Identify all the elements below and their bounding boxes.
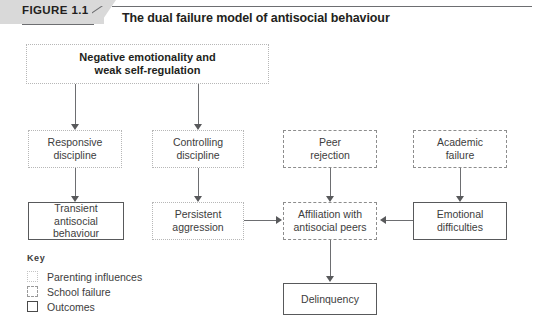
node-line-2: antisocial peers [294,221,367,233]
node-line-2: weak self-regulation [95,64,201,76]
key-label-parenting: Parenting influences [47,271,142,283]
node-text-wrapper: Responsive discipline [48,136,103,162]
node-line-1: Emotional [437,208,484,220]
connector-root-to-responsive [75,84,76,126]
node-text-wrapper: Peer rejection [310,136,350,162]
node-text-wrapper: Affiliation with antisocial peers [294,208,367,234]
key-title: Key [27,253,142,263]
node-text-wrapper: Delinquency [301,293,359,306]
figure-container: FIGURE 1.1 The dual failure model of ant… [0,0,534,330]
key-item-school-failure: School failure [27,284,142,299]
node-negative-emotionality: Negative emotionality and weak self-regu… [26,44,269,84]
node-text-wrapper: Academic failure [437,136,483,162]
node-affiliation-antisocial-peers: Affiliation with antisocial peers [283,202,377,240]
node-line-1: Academic [437,136,483,148]
node-text-wrapper: Persistent aggression [172,208,223,234]
node-transient-antisocial-behaviour: Transient antisocial behaviour [28,202,124,240]
arrowhead-emotional-to-affiliation [380,216,386,224]
node-line-1: Persistent [175,208,222,220]
node-line-1: Controlling [173,136,223,148]
node-text-wrapper: Negative emotionality and weak self-regu… [79,51,215,78]
connector-controlling-to-persistent [198,168,199,198]
node-line-2: aggression [172,221,223,233]
connector-persistent-to-affiliation [244,220,277,221]
node-academic-failure: Academic failure [413,130,507,168]
node-line-1: Responsive [48,136,103,148]
key-legend: Key Parenting influences School failure … [27,253,142,314]
key-label-outcomes: Outcomes [47,301,95,313]
connector-root-to-controlling [198,84,199,126]
node-text-wrapper: Transient antisocial behaviour [32,202,120,240]
header-rule-left [22,24,94,25]
node-line-1: Delinquency [301,293,359,305]
node-line-2: antisocial behaviour [53,215,99,240]
node-responsive-discipline: Responsive discipline [28,130,122,168]
node-line-1: Affiliation with [298,208,362,220]
figure-number-label: FIGURE 1.1 [22,4,89,16]
node-delinquency: Delinquency [283,283,377,315]
connector-peer-to-affiliation [330,168,331,198]
node-line-1: Peer [319,136,341,148]
arrowhead-persistent-to-affiliation [276,216,282,224]
key-swatch-icon-parenting [27,271,38,282]
node-line-2: difficulties [437,221,483,233]
node-text-wrapper: Controlling discipline [173,136,223,162]
header-rule-right [112,6,532,7]
node-peer-rejection: Peer rejection [283,130,377,168]
node-text-wrapper: Emotional difficulties [437,208,484,234]
node-persistent-aggression: Persistent aggression [152,202,244,240]
key-swatch-icon-school [27,286,38,297]
figure-title: The dual failure model of antisocial beh… [122,11,390,25]
header-rule-diagonal [92,6,118,25]
node-emotional-difficulties: Emotional difficulties [413,202,507,240]
node-line-1: Transient [54,202,97,214]
node-controlling-discipline: Controlling discipline [152,130,244,168]
node-line-2: discipline [176,149,219,161]
node-line-1: Negative emotionality and [79,51,215,63]
connector-emotional-to-affiliation [386,220,413,221]
node-line-2: rejection [310,149,350,161]
node-line-2: failure [446,149,475,161]
key-item-parenting-influences: Parenting influences [27,269,142,284]
connector-affiliation-to-delinquency [330,240,331,278]
key-swatch-icon-outcomes [27,301,38,312]
arrowhead-affiliation-to-delinquency [326,276,334,282]
key-label-school: School failure [47,286,111,298]
key-item-outcomes: Outcomes [27,299,142,314]
connector-academic-to-emotional [460,168,461,198]
connector-responsive-to-transient [75,168,76,198]
node-line-2: discipline [53,149,96,161]
